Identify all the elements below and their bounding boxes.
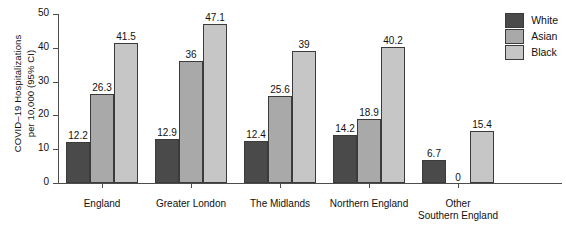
category-label-line: Other xyxy=(418,198,498,210)
bar[interactable]: 40.2 xyxy=(381,47,405,183)
y-axis-tick-label: 50 xyxy=(38,7,49,18)
bar[interactable]: 12.2 xyxy=(66,142,90,183)
legend-item[interactable]: White xyxy=(505,12,558,28)
legend-swatch xyxy=(505,13,524,28)
y-axis-tick: 50 xyxy=(53,14,58,15)
bar[interactable]: 26.3 xyxy=(90,94,114,183)
legend-label: White xyxy=(531,14,558,26)
y-axis-tick-label: 10 xyxy=(38,142,49,153)
bar-value-label: 36 xyxy=(185,49,196,60)
category-label-line: England xyxy=(84,198,121,210)
bar-value-label: 25.6 xyxy=(270,84,289,95)
bar-value-label: 14.2 xyxy=(335,123,354,134)
x-axis-tick xyxy=(369,184,370,188)
bar[interactable]: 12.4 xyxy=(244,141,268,183)
bar-value-label: 40.2 xyxy=(383,35,402,46)
legend-swatch xyxy=(505,45,524,60)
y-axis-tick: 0 xyxy=(53,183,58,184)
category-label-line: Northern England xyxy=(330,198,408,210)
legend-label: Asian xyxy=(531,30,557,42)
bar-value-label: 0 xyxy=(455,172,461,183)
x-axis-tick xyxy=(102,184,103,188)
y-axis-tick-label: 40 xyxy=(38,41,49,52)
bar[interactable]: 6.7 xyxy=(422,160,446,183)
bar-value-label: 12.2 xyxy=(68,130,87,141)
y-axis-title-line2: per 10,000 (95% CI) xyxy=(25,4,38,183)
x-axis-category-label: The Midlands xyxy=(250,198,310,210)
bar[interactable]: 25.6 xyxy=(268,96,292,183)
bar-value-label: 12.4 xyxy=(246,129,265,140)
x-axis-category-label: Greater London xyxy=(156,198,226,210)
y-axis-tick-label: 30 xyxy=(38,75,49,86)
bar-value-label: 47.1 xyxy=(205,12,224,23)
legend-item[interactable]: Black xyxy=(505,44,558,60)
category-label-line: Greater London xyxy=(156,198,226,210)
chart-figure: COVID–19 Hospitalizations per 10,000 (95… xyxy=(0,0,566,232)
y-axis-tick: 10 xyxy=(53,149,58,150)
x-axis-tick xyxy=(280,184,281,188)
y-axis-tick: 30 xyxy=(53,82,58,83)
bar[interactable]: 18.9 xyxy=(357,119,381,183)
x-axis-category-label: England xyxy=(84,198,121,210)
bar[interactable]: 41.5 xyxy=(114,43,138,183)
x-axis-tick xyxy=(191,184,192,188)
bar-value-label: 39 xyxy=(298,39,309,50)
bar-value-label: 12.9 xyxy=(157,127,176,138)
bar-value-label: 41.5 xyxy=(116,31,135,42)
plot-area: 01020304050 12.226.341.512.93647.112.425… xyxy=(58,14,494,183)
bar-value-label: 6.7 xyxy=(427,148,441,159)
bar[interactable]: 39 xyxy=(292,51,316,183)
bar[interactable]: 47.1 xyxy=(203,24,227,183)
bar[interactable]: 36 xyxy=(179,61,203,183)
bar[interactable]: 15.4 xyxy=(470,131,494,183)
x-axis-line xyxy=(54,183,562,184)
y-axis-title: COVID–19 Hospitalizations per 10,000 (95… xyxy=(0,0,40,190)
y-axis-line xyxy=(58,14,59,183)
legend: WhiteAsianBlack xyxy=(505,12,558,60)
legend-item[interactable]: Asian xyxy=(505,28,558,44)
bar[interactable]: 12.9 xyxy=(155,139,179,183)
y-axis-title-line1: COVID–19 Hospitalizations xyxy=(12,4,25,183)
category-label-line: Southern England xyxy=(418,210,498,222)
legend-swatch xyxy=(505,29,524,44)
bar-value-label: 26.3 xyxy=(92,82,111,93)
x-axis-category-label: OtherSouthern England xyxy=(418,198,498,222)
y-axis-tick-label: 20 xyxy=(38,108,49,119)
bar-value-label: 18.9 xyxy=(359,107,378,118)
category-label-line: The Midlands xyxy=(250,198,310,210)
y-axis-tick: 20 xyxy=(53,115,58,116)
x-axis-tick xyxy=(458,184,459,188)
legend-label: Black xyxy=(531,46,557,58)
bar-value-label: 15.4 xyxy=(472,119,491,130)
bar[interactable]: 14.2 xyxy=(333,135,357,183)
y-axis-tick: 40 xyxy=(53,48,58,49)
x-axis-category-label: Northern England xyxy=(330,198,408,210)
y-axis-tick-label: 0 xyxy=(43,176,49,187)
